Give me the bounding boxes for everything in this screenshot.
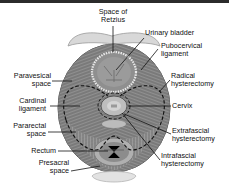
label-presacral-space: Presacral space <box>30 159 69 176</box>
label-line: Urinary bladder <box>145 29 194 37</box>
label-pararectal-space: Pararectal space <box>8 122 46 139</box>
label-line: space <box>8 80 51 88</box>
label-extrafascial-hysterectomy: Extrafascial hysterectomy <box>172 127 215 144</box>
label-pubocervical-ligament: Pubocervical ligament <box>161 42 202 59</box>
label-line: space <box>30 167 69 175</box>
label-space-of-retzius: Space of Retzius <box>95 8 131 25</box>
sacrum-bone <box>92 172 136 183</box>
label-radical-hysterectomy: Radical hysterectomy <box>171 72 214 89</box>
label-paravesical-space: Paravesical space <box>8 72 51 89</box>
rectum-shape <box>94 138 134 166</box>
label-line: ligament <box>10 105 46 113</box>
label-line: Cervix <box>172 102 192 110</box>
label-line: space <box>8 130 46 138</box>
label-intrafascial-hysterectomy: Intrafascial hysterectomy <box>161 152 204 169</box>
rectovaginal-septum <box>102 120 126 128</box>
label-line: ligament <box>161 50 202 58</box>
label-cardinal-ligament: Cardinal ligament <box>10 97 46 114</box>
label-rectum: Rectum <box>22 147 56 155</box>
label-line: hysterectomy <box>171 80 214 88</box>
label-line: hysterectomy <box>161 160 204 168</box>
label-cervix: Cervix <box>172 102 192 110</box>
urinary-bladder-shape <box>92 52 136 92</box>
label-urinary-bladder: Urinary bladder <box>145 29 194 37</box>
label-line: hysterectomy <box>172 135 215 143</box>
label-line: Retzius <box>95 16 131 24</box>
label-line: Rectum <box>22 147 56 155</box>
